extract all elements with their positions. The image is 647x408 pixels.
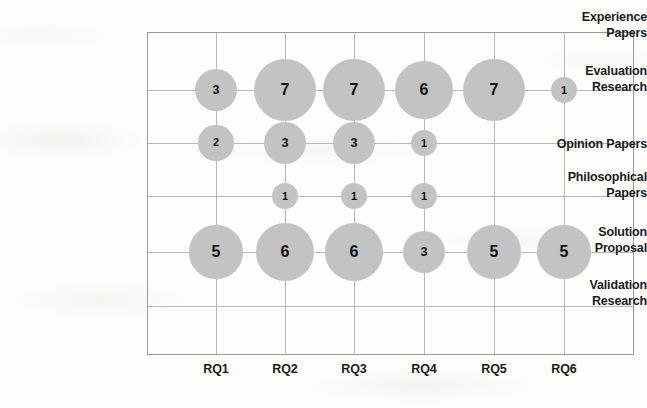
- bubble-value-label: 6: [420, 82, 429, 98]
- bubble-value-label: 7: [490, 82, 499, 98]
- y-axis-label-philosophical-papers: Philosophical Papers: [505, 169, 647, 201]
- x-axis-label-rq2: RQ2: [255, 362, 315, 376]
- bubble-value-label: 1: [421, 191, 427, 202]
- bubble-rq4-opinion-papers: 1: [411, 130, 437, 156]
- y-axis-label-line: Papers: [505, 25, 647, 41]
- y-axis-label-line: Evaluation: [505, 63, 647, 79]
- bubble-value-label: 1: [561, 85, 567, 96]
- bubble-rq5-solution-proposal: 5: [467, 225, 520, 278]
- bubble-value-label: 1: [421, 138, 427, 149]
- x-axis-label-rq3: RQ3: [324, 362, 384, 376]
- bubble-rq2-evaluation-research: 7: [254, 59, 316, 121]
- bubble-value-label: 6: [350, 244, 359, 260]
- bubble-rq3-evaluation-research: 7: [323, 59, 385, 121]
- bubble-rq6-solution-proposal: 5: [537, 225, 590, 278]
- x-axis-label-rq4: RQ4: [394, 362, 454, 376]
- bubble-value-label: 1: [282, 191, 288, 202]
- y-axis-label-line: Philosophical: [505, 169, 647, 185]
- y-axis-label-line: Experience: [505, 9, 647, 25]
- bubble-rq3-opinion-papers: 3: [333, 122, 375, 164]
- bubble-value-label: 3: [420, 246, 427, 259]
- bubble-rq3-philosophical-papers: 1: [341, 183, 367, 209]
- bubble-rq4-solution-proposal: 3: [403, 231, 445, 273]
- bubble-value-label: 5: [560, 244, 569, 260]
- bubble-rq6-evaluation-research: 1: [551, 77, 577, 103]
- y-axis-label-line: Validation: [505, 277, 647, 293]
- bubble-value-label: 5: [212, 244, 221, 260]
- y-axis-label-experience-papers: Experience Papers: [505, 9, 647, 41]
- bubble-rq3-solution-proposal: 6: [325, 223, 383, 281]
- bubble-value-label: 3: [212, 84, 219, 97]
- y-axis-label-opinion-papers: Opinion Papers: [505, 136, 647, 152]
- bubble-rq1-solution-proposal: 5: [189, 225, 242, 278]
- x-axis-label-rq1: RQ1: [186, 362, 246, 376]
- bubble-value-label: 2: [213, 137, 219, 148]
- bubble-value-label: 1: [351, 191, 357, 202]
- y-axis-label-line: Research: [505, 293, 647, 309]
- bubble-value-label: 7: [281, 82, 290, 98]
- bubble-rq1-opinion-papers: 2: [198, 125, 233, 160]
- bubble-rq2-solution-proposal: 6: [256, 223, 314, 281]
- x-axis-label-rq5: RQ5: [464, 362, 524, 376]
- y-axis-label-line: Opinion Papers: [505, 136, 647, 152]
- bubble-rq4-evaluation-research: 6: [395, 61, 453, 119]
- y-axis-label-validation-research: Validation Research: [505, 277, 647, 309]
- bubble-rq2-philosophical-papers: 1: [272, 183, 298, 209]
- bubble-value-label: 5: [490, 244, 499, 260]
- bubble-rq2-opinion-papers: 3: [264, 122, 306, 164]
- x-axis-label-rq6: RQ6: [534, 362, 594, 376]
- bubble-rq4-philosophical-papers: 1: [411, 183, 437, 209]
- bubble-value-label: 7: [350, 82, 359, 98]
- bubble-value-label: 6: [281, 244, 290, 260]
- bubble-rq5-evaluation-research: 7: [463, 59, 525, 121]
- bubble-value-label: 3: [350, 137, 357, 150]
- y-axis-label-line: Papers: [505, 185, 647, 201]
- bubble-chart-figure: Experience Papers Evaluation Research Op…: [0, 0, 647, 408]
- bubble-rq1-evaluation-research: 3: [195, 69, 237, 111]
- bubble-value-label: 3: [281, 137, 288, 150]
